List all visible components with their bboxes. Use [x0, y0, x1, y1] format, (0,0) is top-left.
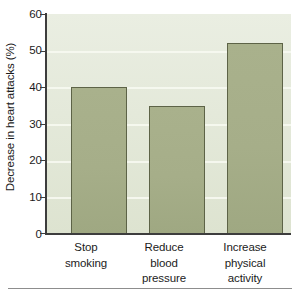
bar-reduce-blood-pressure: [149, 106, 205, 234]
x-category-label-reduce-blood-pressure: Reduce blood pressure: [124, 240, 204, 287]
x-category-line: Reduce: [124, 240, 204, 256]
x-category-line: physical: [202, 256, 288, 272]
y-tick-label-20: 20: [18, 154, 42, 167]
x-axis-spine: [45, 233, 291, 235]
x-category-line: activity: [202, 271, 288, 287]
x-category-label-stop-smoking: Stop smoking: [46, 240, 126, 271]
bar-chart-figure: Decrease in heart attacks (%) 60 50 40 3…: [0, 0, 300, 296]
x-category-label-increase-physical-activity: Increase physical activity: [202, 240, 288, 287]
x-category-line: blood: [124, 256, 204, 272]
bar-increase-physical-activity: [227, 43, 283, 234]
y-axis-title: Decrease in heart attacks (%): [2, 0, 18, 234]
y-tick-label-10: 10: [18, 191, 42, 204]
x-category-line: smoking: [46, 256, 126, 272]
x-category-line: Stop: [46, 240, 126, 256]
x-category-line: pressure: [124, 271, 204, 287]
y-tick-label-60: 60: [18, 8, 42, 21]
bottom-divider-rule: [8, 288, 292, 289]
y-tick-label-40: 40: [18, 81, 42, 94]
y-tick-label-0: 0: [18, 228, 42, 241]
y-tick-label-30: 30: [18, 118, 42, 131]
y-tick-label-50: 50: [18, 44, 42, 57]
bar-stop-smoking: [71, 87, 127, 234]
plot-area: [46, 14, 291, 234]
y-axis-spine: [45, 13, 47, 235]
x-category-line: Increase: [202, 240, 288, 256]
